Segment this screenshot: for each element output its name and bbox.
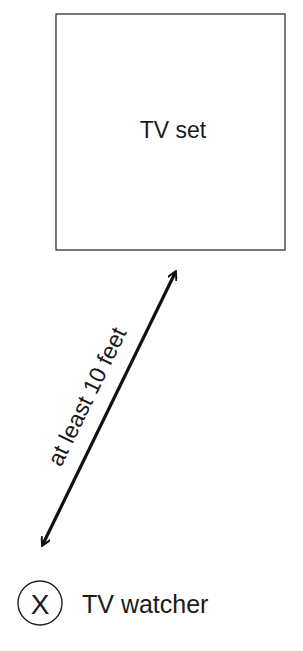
distance-arrow: at least 10 feet (42, 273, 175, 544)
tv-set-label: TV set (140, 117, 207, 143)
double-arrow-icon (43, 273, 175, 544)
watcher-x-icon: X (31, 589, 50, 620)
distance-label: at least 10 feet (42, 322, 132, 470)
watcher-label: TV watcher (82, 590, 208, 618)
tv-watcher: X TV watcher (18, 581, 208, 625)
tv-set-box: TV set (56, 14, 285, 250)
tv-viewing-distance-diagram: TV set at least 10 feet X TV watcher (0, 0, 303, 651)
